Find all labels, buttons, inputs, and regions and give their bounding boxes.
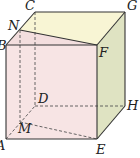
label-D: D (37, 91, 49, 106)
label-N: N (7, 18, 20, 33)
label-B: B (0, 38, 7, 53)
cuboid-diagram: C G N B F D H M A E (0, 0, 140, 158)
label-H: H (126, 98, 139, 113)
label-E: E (95, 142, 106, 157)
label-C: C (25, 0, 35, 13)
label-A: A (0, 138, 5, 153)
label-G: G (127, 0, 137, 13)
label-F: F (98, 45, 109, 60)
label-M: M (17, 121, 32, 136)
